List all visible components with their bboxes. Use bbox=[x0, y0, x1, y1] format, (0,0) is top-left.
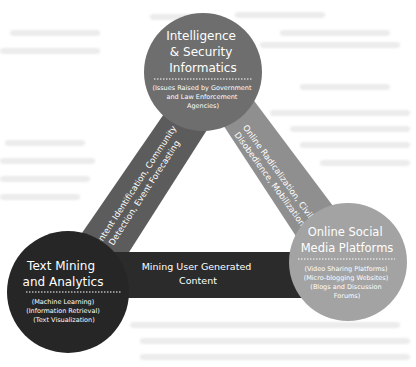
svg-text:Content Identification, Commun: Content Identification, Community Detect… bbox=[90, 121, 189, 258]
text-mining-title-line-2: and Analytics bbox=[23, 275, 104, 289]
triangle-diagram: Content Identification, Community Detect… bbox=[0, 0, 416, 367]
intelligence-subtitle-line-2: and Law Enforcement bbox=[167, 93, 238, 101]
social-media-subtitle-line-1: (Video Sharing Platforms) bbox=[304, 265, 387, 273]
social-media-title-line-2: Media Platforms bbox=[301, 241, 394, 255]
text-mining-subtitle-line-1: (Machine Learning) bbox=[32, 298, 95, 306]
bottom-edge-label-line-1: Mining User Generated bbox=[142, 261, 252, 272]
social-media-subtitle-line-3: (Blogs and Discussion bbox=[310, 283, 381, 291]
social-media-subtitle-line-2: (Micro-blogging Websites) bbox=[304, 274, 389, 282]
bottom-edge-label-line-2: Content bbox=[179, 275, 217, 286]
svg-text:(Machine Learning) (Info: (Machine Learning) (Information Retrieva… bbox=[26, 298, 102, 324]
node-intelligence-security: Intelligence & Security Informatics (Iss… bbox=[144, 13, 262, 131]
intelligence-subtitle-line-1: (Issues Raised by Government bbox=[152, 84, 252, 92]
text-mining-subtitle-line-2: (Information Retrieval) bbox=[26, 307, 100, 315]
intelligence-title-line-3: Informatics bbox=[169, 61, 236, 75]
social-media-title-line-1: Online Social bbox=[308, 225, 383, 239]
social-media-subtitle-line-4: Forums) bbox=[334, 292, 361, 300]
node-text-mining: Text Mining and Analytics (Machine Learn… bbox=[7, 231, 129, 353]
node-social-media: Online Social Media Platforms (Video Sha… bbox=[289, 203, 407, 321]
text-mining-subtitle-line-3: (Text Visualization) bbox=[33, 316, 94, 324]
text-mining-title-line-1: Text Mining bbox=[26, 259, 95, 273]
intelligence-title-line-2: & Security bbox=[170, 45, 232, 59]
intelligence-subtitle-line-3: Agencies) bbox=[187, 102, 219, 110]
intelligence-title-line-1: Intelligence bbox=[166, 29, 236, 43]
svg-text:Intelligence & Security: Intelligence & Security Informatics bbox=[166, 29, 240, 75]
